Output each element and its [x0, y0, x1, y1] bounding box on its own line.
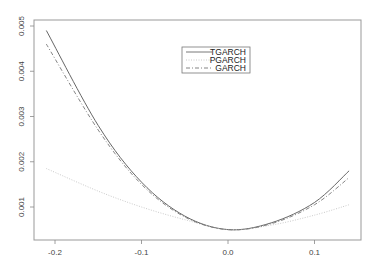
y-tick-label: 0.001	[17, 196, 26, 217]
y-tick-label: 0.004	[17, 61, 26, 82]
series-pgarch	[46, 169, 349, 230]
chart-canvas: 0.0010.0020.0030.0040.005 -0.2-0.10.00.1…	[0, 0, 381, 279]
y-axis: 0.0010.0020.0030.0040.005	[17, 15, 34, 217]
x-tick-label: -0.1	[135, 248, 149, 257]
x-axis: -0.2-0.10.00.1	[48, 240, 321, 257]
x-tick-label: -0.2	[48, 248, 62, 257]
legend-garch: GARCH	[215, 63, 246, 73]
y-tick-label: 0.002	[17, 151, 26, 172]
y-tick-label: 0.003	[17, 106, 26, 127]
y-tick-label: 0.005	[17, 15, 26, 36]
x-tick-label: 0.0	[222, 248, 234, 257]
legend: TGARCH PGARCH GARCH	[182, 47, 250, 73]
x-tick-label: 0.1	[309, 248, 321, 257]
